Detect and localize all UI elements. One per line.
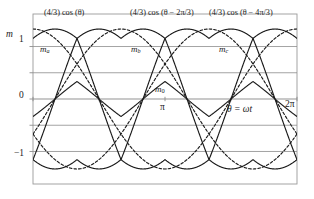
annotation-m-b-sub: b <box>138 47 141 54</box>
annotation-equation-phase-b: (4/3) cos (θ − 2π/3) <box>130 9 194 17</box>
annotation-m-c-sub: c <box>226 47 229 54</box>
figure-svpwm-waveforms: m 1 0 −1 π 2π θ = ωt (4/3) cos (θ) (4/3)… <box>0 0 314 199</box>
y-tick-label-minus-1: −1 <box>14 149 24 159</box>
annotation-m-0: m0 <box>155 85 165 95</box>
annotation-equation-phase-c: (4/3) cos (θ − 4π/3) <box>209 9 273 17</box>
y-tick-label-0: 0 <box>19 91 24 101</box>
annotation-m-0-sub: 0 <box>162 87 165 94</box>
annotation-m-c: mc <box>219 45 228 55</box>
y-tick-label-1: 1 <box>19 35 24 45</box>
annotation-m-b: mb <box>131 45 141 55</box>
x-axis-label: θ = ωt <box>227 105 252 115</box>
annotation-equation-phase-a: (4/3) cos (θ) <box>44 9 84 17</box>
annotation-m-a-sub: a <box>47 47 50 54</box>
annotation-m-a: ma <box>40 45 50 55</box>
y-axis-label: m <box>6 30 13 40</box>
x-tick-label-pi: π <box>160 103 165 113</box>
waveform-plot <box>0 0 314 199</box>
x-tick-label-2pi: 2π <box>285 100 295 110</box>
